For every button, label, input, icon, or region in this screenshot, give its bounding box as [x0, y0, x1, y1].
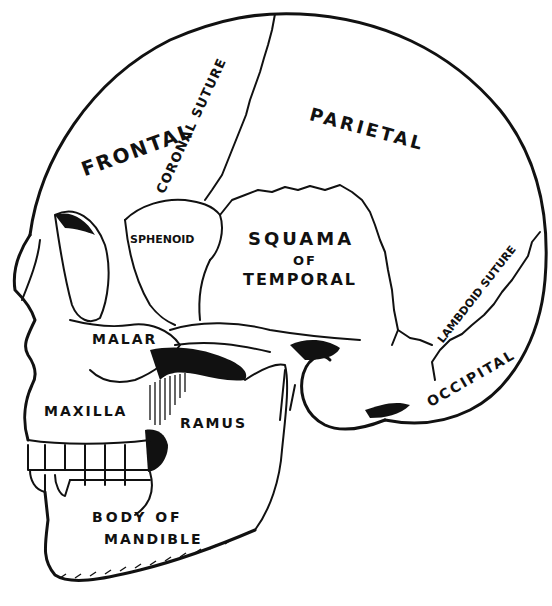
label-of: OF — [293, 254, 317, 267]
label-temporal: TEMPORAL — [243, 272, 357, 288]
label-body-of: BODY OF — [92, 510, 183, 524]
label-ramus: RAMUS — [180, 416, 247, 430]
skull-diagram: FRONTAL CORONAL SUTURE PARIETAL SPHENOID… — [0, 0, 552, 606]
label-maxilla: MAXILLA — [44, 404, 127, 418]
label-squama: SQUAMA — [248, 230, 354, 248]
label-mandible: MANDIBLE — [104, 532, 202, 546]
label-sphenoid: SPHENOID — [130, 234, 195, 245]
label-malar: MALAR — [92, 332, 157, 346]
